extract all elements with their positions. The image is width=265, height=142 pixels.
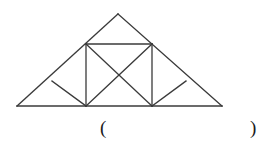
left-small-triangle-chord — [52, 81, 86, 106]
geometry-figure: ( ) — [0, 0, 265, 142]
geometry-diagram — [0, 0, 265, 142]
answer-open-paren: ( — [100, 118, 106, 137]
right-small-triangle-chord — [152, 81, 186, 106]
answer-close-paren: ) — [250, 118, 256, 137]
